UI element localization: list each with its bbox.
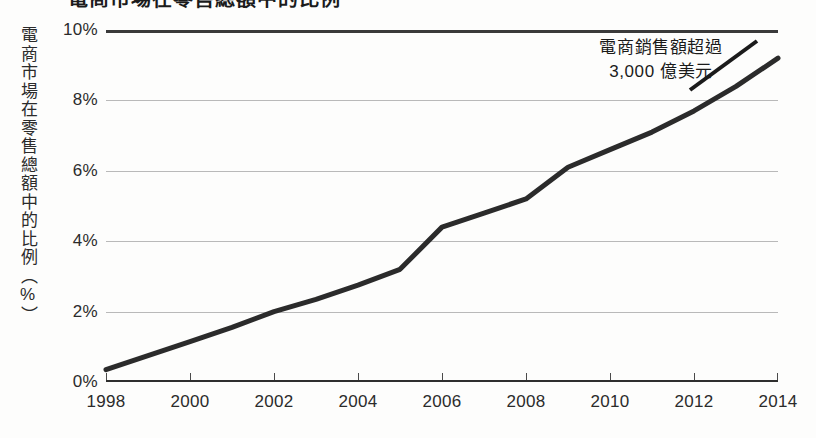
chart-figure: 電商市場在零售總額中的比例 電商市場在零售總額中的比例（%） 10%8%6%4%… xyxy=(0,0,816,438)
annotation-leader-line xyxy=(0,0,816,438)
